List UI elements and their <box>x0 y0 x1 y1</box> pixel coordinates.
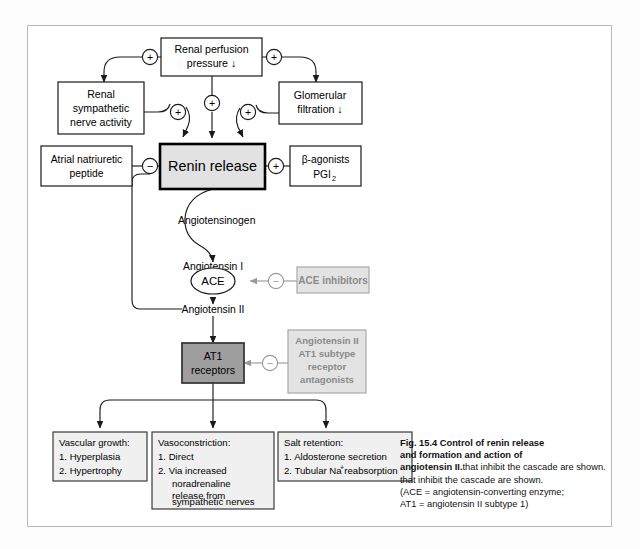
renal-sympathetic-line-1: Renal <box>87 88 115 100</box>
at1-antagonists-line-3: receptor <box>308 361 347 372</box>
minus-sign: − <box>273 275 279 287</box>
figure-caption: Fig. 15.4 Control of renin release and f… <box>400 437 612 510</box>
plus-sign: + <box>175 106 181 118</box>
outcome-title: Vascular growth: <box>59 437 130 448</box>
outcome-item: noradrenaline <box>172 478 231 489</box>
at1-receptors-line-2: receptors <box>191 364 235 376</box>
beta-agonists-subscript: 2 <box>332 174 336 183</box>
outcome-item: 2. Hypertrophy <box>59 465 122 476</box>
atrial-peptide-line-1: Atrial natriuretic <box>51 154 123 165</box>
box-glomerular-filtration: Glomerular filtration ↓ <box>279 82 362 124</box>
glomerular-line-1: Glomerular <box>294 89 347 101</box>
box-atrial-natriuretic-peptide: Atrial natriuretic peptide <box>41 146 132 186</box>
caption-line-3-bold: angiotensin II. <box>400 462 463 472</box>
plus-node-perfusion-to-renin: + <box>204 95 219 110</box>
plus-node-beta-agonists-to-renin: + <box>268 158 283 173</box>
plus-node-perfusion-to-sympathetic: + <box>142 49 157 64</box>
outcome-item: 1. Direct <box>158 451 194 462</box>
outcome-box-vascular-growth: Vascular growth: 1. Hyperplasia 2. Hyper… <box>53 432 147 481</box>
plus-sign: + <box>245 106 251 118</box>
at1-antagonists-line-1: Angiotensin II <box>295 335 359 346</box>
angiotensinogen-label: Angiotensinogen <box>178 215 256 226</box>
minus-sign: − <box>267 357 273 369</box>
box-beta-agonists: β-agonists PGI 2 <box>290 146 361 186</box>
outcome-item: 2. Via increased <box>158 465 227 476</box>
renal-sympathetic-line-3: nerve activity <box>70 116 133 128</box>
minus-node-anp-to-renin: − <box>142 158 157 173</box>
caption-line-2: and formation and action of <box>400 450 522 460</box>
caption-line-1: Fig. 15.4 Control of renin release <box>400 438 544 448</box>
plus-sign: + <box>271 51 277 63</box>
minus-sign: − <box>147 160 153 172</box>
outcome-title: Vasoconstriction: <box>158 437 230 448</box>
beta-agonists-line-2: PGI <box>313 169 331 180</box>
renin-release-label: Renin release <box>168 158 257 174</box>
outcome-box-salt-retention: Salt retention: 1. Aldosterone secretion… <box>278 432 412 481</box>
glomerular-line-2: filtration ↓ <box>297 103 342 115</box>
angiotensin-ii-label: Angiotensin II <box>182 304 245 315</box>
at1-antagonists-line-4: antagonists <box>300 374 354 385</box>
atrial-peptide-line-2: peptide <box>70 168 104 179</box>
renal-perfusion-line-1: Renal perfusion <box>174 43 248 55</box>
caption-line-5: (ACE = angiotensin-converting enzyme; <box>400 487 564 497</box>
plus-sign: + <box>147 51 153 63</box>
ace-label: ACE <box>201 275 225 287</box>
outcome-title: Salt retention: <box>284 437 343 448</box>
box-at1-receptors: AT1 receptors <box>182 343 244 383</box>
caption-line-6: AT1 = angiotensin II subtype 1) <box>400 499 528 509</box>
box-ace-inhibitors[interactable]: ACE inhibitors <box>297 267 369 293</box>
vasoconstriction-item-last: sympathetic nerves <box>172 496 255 507</box>
plus-sign: + <box>273 160 279 172</box>
plus-node-sympathetic-to-renin: + <box>170 104 185 119</box>
box-renal-sympathetic: Renal sympathetic nerve activity <box>58 82 144 134</box>
minus-node-at1-antagonists: − <box>262 355 277 370</box>
at1-antagonists-line-2: AT1 subtype <box>299 348 356 359</box>
renal-sympathetic-line-2: sympathetic <box>73 102 130 114</box>
outcome-item: 1. Hyperplasia <box>59 451 121 462</box>
outcome-item: 1. Aldosterone secretion <box>284 451 387 462</box>
box-at1-antagonists[interactable]: Angiotensin II AT1 subtype receptor anta… <box>288 330 366 393</box>
caption-line-3-plain: that inhibit the cascade are shown. <box>463 462 606 472</box>
at1-receptors-line-1: AT1 <box>204 350 223 362</box>
box-renal-perfusion: Renal perfusion pressure ↓ <box>161 38 262 76</box>
ace-enzyme-node: ACE <box>191 268 235 294</box>
box-renin-release: Renin release <box>160 144 265 189</box>
figure-page: Renal perfusion pressure ↓ Renal sympath… <box>0 0 640 549</box>
renal-perfusion-line-2: pressure ↓ <box>187 57 236 69</box>
plus-sign: + <box>209 97 215 109</box>
minus-node-ace-inhibitors: − <box>268 273 283 288</box>
plus-node-perfusion-to-glomerular: + <box>266 49 281 64</box>
beta-agonists-line-1: β-agonists <box>302 154 350 165</box>
salt-retention-superscript: + <box>340 464 344 471</box>
ace-inhibitors-label: ACE inhibitors <box>298 275 368 286</box>
caption-line-4: that inhibit the cascade are shown. <box>400 475 543 485</box>
plus-node-glomerular-to-renin: + <box>240 104 255 119</box>
